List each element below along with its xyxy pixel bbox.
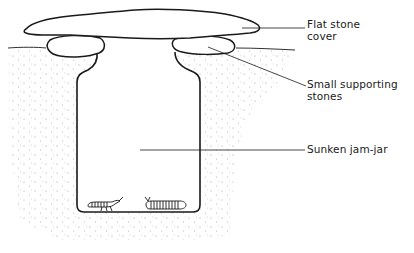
label-sunken-jam-jar: Sunken jam-jar — [307, 143, 388, 155]
flat-stone-cover — [24, 9, 259, 39]
label-supporting-line1: Small supporting — [307, 78, 398, 90]
left-supporting-stone — [47, 36, 104, 57]
label-supporting-line2: stones — [307, 90, 398, 102]
label-flat-stone-line2: cover — [307, 30, 360, 42]
label-small-supporting-stones: Small supporting stones — [307, 78, 398, 102]
label-flat-stone-line1: Flat stone — [307, 18, 360, 30]
label-flat-stone-cover: Flat stone cover — [307, 18, 360, 42]
sunken-jam-jar — [77, 52, 200, 212]
label-jar-line1: Sunken jam-jar — [307, 143, 388, 155]
